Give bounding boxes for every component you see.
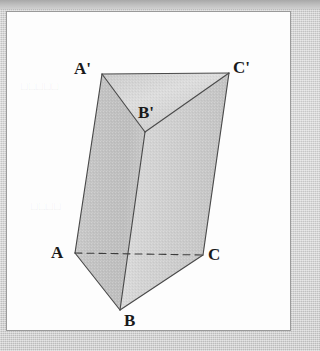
vertex-label-A-prime: A' [74, 60, 91, 77]
vertex-label-B: B [124, 312, 135, 329]
vertex-label-C: C [208, 246, 220, 263]
figure-panel: □□□□□ □□□□ [6, 11, 291, 331]
scan-edge-band [0, 0, 320, 9]
vertex-label-B-prime: B' [138, 104, 154, 121]
vertex-label-C-prime: C' [233, 59, 250, 76]
vertex-label-A: A [51, 244, 63, 261]
